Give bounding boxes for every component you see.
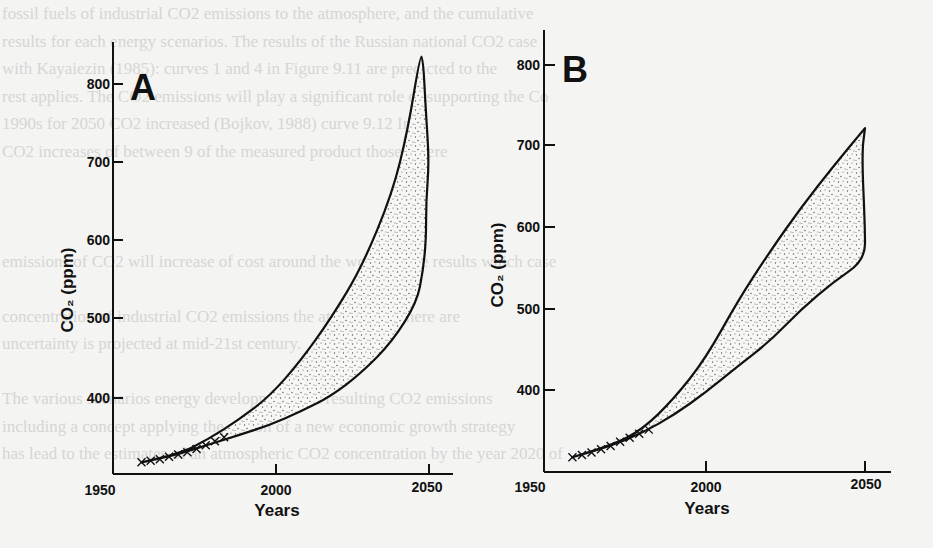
panel-label-b: B (562, 49, 588, 90)
y-tick-label: 600 (87, 232, 111, 248)
x-axis-title: Years (254, 501, 299, 520)
y-tick-label: 400 (87, 390, 111, 406)
x-tick-label: 2050 (411, 479, 442, 495)
x-axis-title: Years (684, 499, 729, 518)
y-ticks (113, 84, 123, 398)
uncertainty-band-b (572, 128, 865, 457)
x-tick-label: 1950 (84, 482, 115, 498)
chart-panel-b: 800 700 600 500 400 1950 2000 2050 Years… (488, 30, 891, 518)
y-axis-title: CO₂ (ppm) (488, 223, 507, 308)
y-tick-label: 700 (517, 137, 541, 153)
y-tick-label: 800 (517, 57, 541, 73)
figure: 800 700 600 500 400 1950 2000 2050 Years… (0, 0, 933, 548)
y-tick-label: 500 (87, 310, 111, 326)
x-tick-label: 2000 (260, 482, 291, 498)
x-ticks (276, 464, 429, 474)
y-tick-label: 400 (517, 382, 541, 398)
x-ticks (706, 461, 865, 472)
y-tick-label: 700 (87, 154, 111, 170)
chart-panel-a: 800 700 600 500 400 1950 2000 2050 Years… (58, 42, 453, 520)
uncertainty-band-a (142, 57, 429, 463)
y-tick-label: 600 (517, 219, 541, 235)
x-tick-label: 2050 (850, 476, 881, 492)
y-tick-label: 800 (87, 76, 111, 92)
x-tick-label: 1950 (514, 479, 545, 495)
y-tick-label: 500 (517, 301, 541, 317)
panel-label-a: A (130, 67, 156, 108)
y-ticks (544, 65, 555, 390)
y-axis-title: CO₂ (ppm) (58, 248, 77, 333)
x-tick-label: 2000 (690, 479, 721, 495)
